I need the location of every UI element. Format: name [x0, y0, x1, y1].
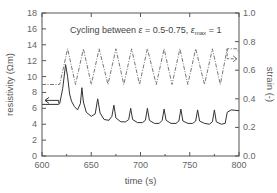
y-right-tick-label: 0.0: [243, 151, 256, 161]
y-left-tick-label: 6: [32, 103, 37, 113]
y-axis-left-title: resistivity (Ωm): [4, 53, 15, 116]
series-strain: [42, 49, 239, 85]
y-right-tick-label: 1.0: [243, 8, 256, 18]
y-right-tick-label: 0.4: [243, 94, 256, 104]
y-left-tick-label: 0: [32, 151, 37, 161]
y-left-tick-label: 12: [27, 56, 37, 66]
chart: 600650700750800 024681012141618 0.00.20.…: [0, 0, 277, 193]
x-tick-label: 600: [34, 160, 49, 170]
x-tick-label: 750: [182, 160, 197, 170]
y-left-tick-label: 16: [27, 24, 37, 34]
y-right-tick-label: 0.2: [243, 122, 256, 132]
y-left-tick-label: 10: [27, 72, 37, 82]
x-tick-label: 650: [84, 160, 99, 170]
cycling-annotation: Cycling between ε = 0.5-0.75, εmax = 1: [70, 25, 221, 36]
y-left-tick-label: 8: [32, 87, 37, 97]
y-axis-right-ticks: 0.00.20.40.60.81.0: [235, 8, 256, 161]
series-group: [42, 49, 239, 124]
y-left-tick-label: 4: [32, 119, 37, 129]
series-resistivity: [42, 65, 239, 125]
y-axis-right-title: strain (-): [265, 67, 276, 102]
y-left-tick-label: 14: [27, 40, 37, 50]
y-right-tick-label: 0.8: [243, 37, 256, 47]
y-left-tick-label: 2: [32, 135, 37, 145]
y-right-tick-label: 0.6: [243, 65, 256, 75]
x-tick-label: 700: [133, 160, 148, 170]
y-left-tick-label: 18: [27, 8, 37, 18]
x-tick-label: 800: [231, 160, 246, 170]
x-axis-title: time (s): [125, 175, 157, 186]
x-axis-ticks: 600650700750800: [34, 13, 246, 170]
